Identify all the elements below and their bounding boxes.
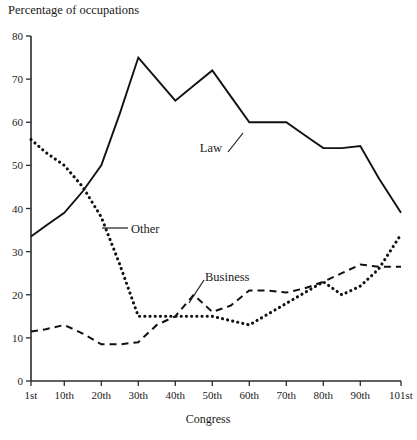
y-tick-label: 10 (12, 332, 24, 344)
y-tick-label: 60 (12, 116, 24, 128)
y-tick-label: 30 (12, 246, 24, 258)
x-axis-title: Congress (186, 412, 231, 426)
y-tick-label: 40 (12, 203, 24, 215)
series-label-business: Business (205, 270, 250, 284)
x-tick-label: 1st (25, 389, 38, 401)
law-leader-line (228, 133, 243, 152)
x-tick-label: 20th (92, 389, 112, 401)
y-tick-label: 50 (12, 159, 24, 171)
x-tick-label: 101st (389, 389, 413, 401)
y-tick-group: 01020304050607080 (12, 30, 31, 387)
y-tick-label: 0 (18, 375, 24, 387)
occupations-line-chart: Percentage of occupations 01020304050607… (0, 0, 417, 440)
series-group (31, 58, 401, 345)
chart-title: Percentage of occupations (8, 3, 139, 17)
y-tick-label: 20 (12, 289, 24, 301)
x-tick-label: 10th (55, 389, 75, 401)
series-label-other: Other (131, 222, 160, 236)
chart-canvas: Percentage of occupations 01020304050607… (0, 0, 417, 440)
x-tick-label: 70th (277, 389, 297, 401)
y-tick-label: 80 (12, 30, 24, 42)
x-tick-label: 80th (314, 389, 334, 401)
business-leader-line (189, 280, 204, 303)
x-tick-label: 90th (351, 389, 371, 401)
x-tick-label: 50th (203, 389, 223, 401)
x-tick-label: 30th (129, 389, 149, 401)
x-tick-group: 1st10th20th30th40th50th60th70th80th90th1… (25, 381, 413, 401)
series-line-other (31, 140, 401, 325)
y-tick-label: 70 (12, 73, 24, 85)
x-tick-label: 60th (240, 389, 260, 401)
series-label-law: Law (200, 141, 222, 155)
x-tick-label: 40th (166, 389, 186, 401)
